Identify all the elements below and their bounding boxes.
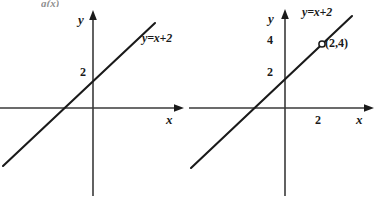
equation-label: y=x+2 bbox=[302, 6, 332, 18]
x-tick-label-2: 2 bbox=[315, 114, 321, 126]
y-axis-right bbox=[281, 9, 289, 196]
y-tick-label-2: 2 bbox=[267, 66, 273, 78]
coordinate-plane-right bbox=[189, 0, 378, 203]
cropped-top-text: g(x) bbox=[41, 0, 59, 7]
x-axis-right bbox=[189, 104, 374, 112]
point-coordinate-label: (2,4) bbox=[325, 37, 348, 49]
graph-panel-left: g(x) y x 2 y=x+2 bbox=[0, 0, 189, 203]
y-tick-label-2: 2 bbox=[80, 66, 86, 78]
y-axis-label: y bbox=[268, 12, 274, 25]
math-figure-two-graphs: g(x) y x 2 y=x+2 y x 2 4 2 bbox=[0, 0, 378, 203]
x-axis-left bbox=[0, 104, 184, 112]
x-axis-label: x bbox=[356, 113, 363, 126]
line-y-equals-x-plus-2-left bbox=[3, 23, 155, 166]
equation-label: y=x+2 bbox=[142, 32, 172, 44]
x-axis-label: x bbox=[166, 113, 173, 126]
y-axis-left bbox=[89, 10, 97, 196]
y-axis-label: y bbox=[78, 13, 84, 26]
graph-panel-right: y x 2 4 2 y=x+2 (2,4) bbox=[189, 0, 378, 203]
y-tick-label-4: 4 bbox=[267, 34, 273, 46]
